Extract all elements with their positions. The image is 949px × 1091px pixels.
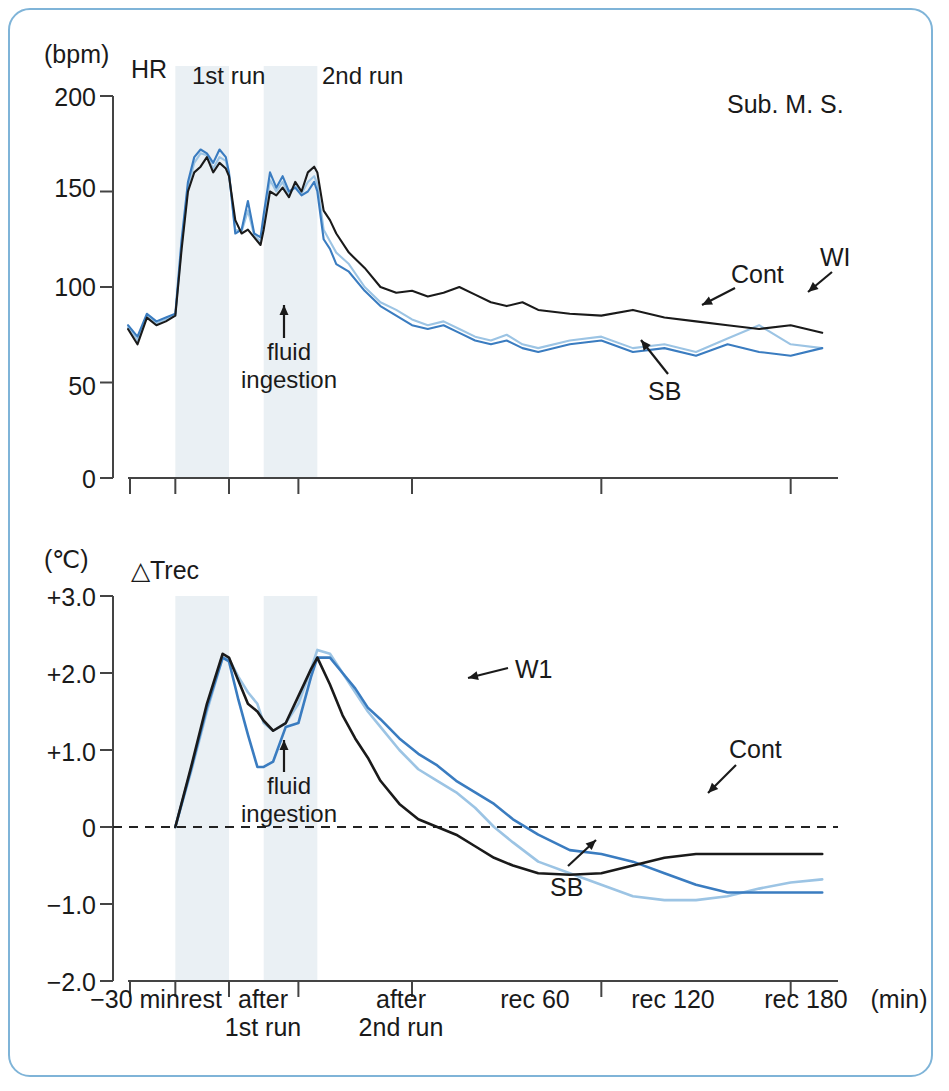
- trec-series-label-w1: W1: [515, 655, 553, 685]
- hr-fluid-ingestion-line1: fluid: [229, 338, 349, 366]
- hr-axis-unit: (bpm): [44, 40, 109, 70]
- xtick-label-after-2nd: after: [343, 985, 459, 1015]
- trec-w1-arrow: [468, 668, 508, 680]
- chart-canvas: [0, 0, 949, 1091]
- hr-panel-name: HR: [131, 55, 167, 85]
- xtick-label-after-1st: after: [205, 985, 321, 1015]
- hr-series-label-cont: Cont: [731, 260, 784, 290]
- figure-container: (bpm) HR 200 150 100 50 0 1st run 2nd ru…: [0, 0, 949, 1091]
- trec-ytick-0: 0: [30, 814, 96, 844]
- subject-label: Sub. M. S.: [727, 90, 844, 120]
- hr-ytick-200: 200: [38, 83, 96, 113]
- trec-panel-name: △Trec: [131, 556, 199, 586]
- hr-ytick-100: 100: [38, 273, 96, 303]
- hr-ytick-0: 0: [38, 465, 96, 495]
- hr-series-label-sb: SB: [648, 377, 681, 407]
- hr-series-wi: [128, 153, 822, 352]
- shaded-band-trec-0: [175, 596, 229, 981]
- hr-series-cont: [128, 157, 822, 344]
- xaxis-unit: (min): [856, 985, 942, 1015]
- trec-fluid-ingestion-line1: fluid: [229, 772, 349, 800]
- trec-ytick-p1: +1.0: [30, 738, 96, 768]
- trec-cont-arrow: [708, 765, 736, 793]
- xtick-label-after-2nd-line2: 2nd run: [337, 1013, 465, 1043]
- trec-ytick-m1: −1.0: [30, 891, 96, 921]
- trec-series-label-sb: SB: [550, 873, 583, 903]
- xtick-label-after-1st-line2: 1st run: [199, 1013, 327, 1043]
- xtick-label-rec120: rec 120: [603, 985, 743, 1015]
- trec-fluid-ingestion-line2: ingestion: [219, 800, 359, 828]
- xtick-label-rec60: rec 60: [472, 985, 598, 1015]
- xtick-label-rec180: rec 180: [736, 985, 876, 1015]
- shaded-band-hr-0: [175, 66, 229, 478]
- trec-series-label-cont: Cont: [729, 735, 782, 765]
- hr-cont-arrow: [702, 288, 735, 305]
- hr-band-label-1st-run: 1st run: [192, 62, 265, 90]
- hr-wi-arrow: [808, 272, 832, 292]
- hr-band-label-2nd-run: 2nd run: [322, 62, 403, 90]
- hr-series-label-wi: WI: [820, 243, 851, 273]
- hr-ytick-150: 150: [38, 174, 96, 204]
- shaded-band-hr-1: [264, 66, 318, 478]
- trec-axis-unit: (℃): [44, 545, 89, 575]
- trec-ytick-p2: +2.0: [30, 660, 96, 690]
- hr-ytick-50: 50: [38, 372, 96, 402]
- trec-ytick-p3: +3.0: [30, 583, 96, 613]
- hr-fluid-ingestion-line2: ingestion: [219, 366, 359, 394]
